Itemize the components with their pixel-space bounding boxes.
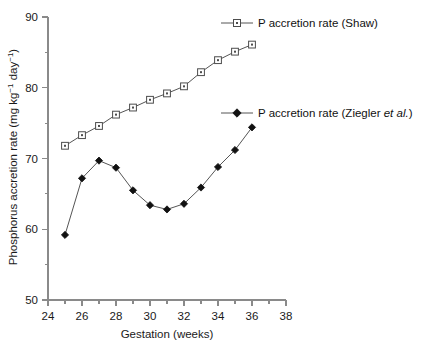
- series-shaw: [62, 41, 256, 149]
- data-point-marker: [61, 231, 68, 238]
- legend-marker-open-square-dot: [236, 22, 238, 24]
- y-tick-label-90: 90: [25, 11, 38, 23]
- y-axis-title: Phosphorus accretion rate (mg kg−1 day−1…: [6, 49, 19, 266]
- chart-figure: Phosphorus accretion rate (mg kg−1 day−1…: [0, 0, 434, 352]
- legend-marker-filled-diamond: [233, 109, 241, 117]
- series-line: [65, 127, 252, 235]
- x-tick-label-34: 34: [212, 310, 225, 322]
- legend-label-ziegler-pre: P accretion rate (Ziegler: [258, 107, 384, 119]
- line-chart: Phosphorus accretion rate (mg kg−1 day−1…: [0, 0, 434, 352]
- y-axis-title-mid: day: [7, 62, 19, 84]
- legend: P accretion rate (Shaw) P accretion rate…: [221, 17, 413, 119]
- x-tick-label-28: 28: [110, 310, 123, 322]
- data-point-marker-center: [98, 125, 100, 127]
- x-tick-label-26: 26: [76, 310, 89, 322]
- data-point-marker-center: [183, 85, 185, 87]
- y-tick-label-50: 50: [25, 294, 38, 306]
- data-point-marker-center: [217, 59, 219, 61]
- y-axis-ticks: 50 60 70 80 90: [25, 11, 48, 306]
- data-point-marker-center: [132, 107, 134, 109]
- data-point-marker: [248, 124, 255, 131]
- series-ziegler: [61, 124, 255, 239]
- x-tick-label-32: 32: [178, 310, 191, 322]
- data-point-marker-center: [115, 114, 117, 116]
- legend-label-ziegler-post: ): [409, 107, 413, 119]
- data-point-marker-center: [149, 99, 151, 101]
- series-line: [65, 45, 252, 146]
- data-point-marker: [112, 164, 119, 171]
- x-axis-title: Gestation (weeks): [121, 328, 214, 340]
- x-tick-label-24: 24: [42, 310, 55, 322]
- x-tick-label-30: 30: [144, 310, 157, 322]
- y-tick-label-80: 80: [25, 82, 38, 94]
- y-axis-title-main: Phosphorus accretion rate (mg kg: [7, 93, 19, 266]
- data-point-marker-center: [234, 51, 236, 53]
- data-point-marker-center: [166, 92, 168, 94]
- y-axis-title-tail: ): [7, 49, 19, 53]
- data-point-marker-center: [200, 71, 202, 73]
- data-point-marker-center: [251, 44, 253, 46]
- data-point-marker-center: [81, 134, 83, 136]
- data-point-marker: [163, 206, 170, 213]
- legend-entry-shaw[interactable]: P accretion rate (Shaw): [221, 17, 378, 29]
- legend-label-ziegler-italic: et al.: [384, 107, 409, 119]
- x-tick-label-36: 36: [246, 310, 259, 322]
- y-tick-label-70: 70: [25, 153, 38, 165]
- y-tick-label-60: 60: [25, 223, 38, 235]
- x-tick-label-38: 38: [280, 310, 293, 322]
- data-point-marker-center: [64, 145, 66, 147]
- legend-label-ziegler: P accretion rate (Ziegler et al.): [258, 107, 413, 119]
- legend-entry-ziegler[interactable]: P accretion rate (Ziegler et al.): [221, 107, 413, 119]
- legend-label-shaw: P accretion rate (Shaw): [258, 17, 378, 29]
- series-layer: [61, 41, 255, 238]
